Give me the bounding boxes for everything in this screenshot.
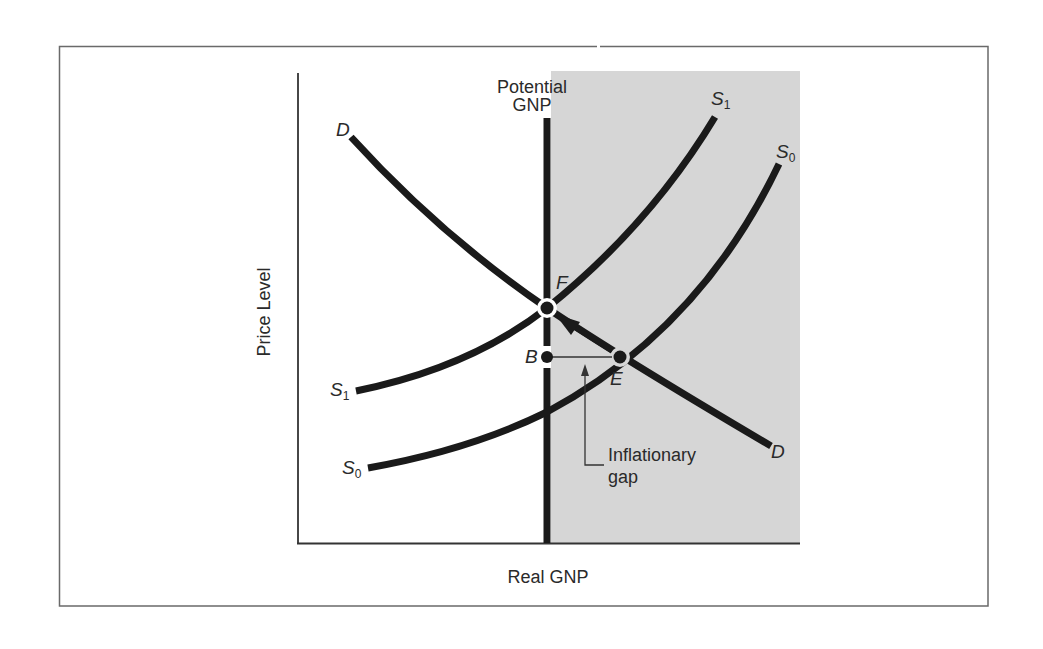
s0-label-top-sub: 0 bbox=[789, 151, 796, 165]
point-e-label: E bbox=[610, 368, 623, 389]
diagram-canvas: Potential GNP D D S1 S0 S1 S0 F B E Infl… bbox=[0, 0, 1043, 649]
s1-label-bottom-sub: 1 bbox=[343, 389, 350, 403]
demand-label-top: D bbox=[336, 119, 350, 140]
shaded-region-above-potential bbox=[551, 71, 800, 543]
point-f-label: F bbox=[556, 272, 569, 293]
s0-label-bottom-sub: 0 bbox=[355, 467, 362, 481]
s1-label-top-main: S bbox=[711, 88, 724, 109]
s0-label-top-main: S bbox=[776, 141, 789, 162]
potential-gnp-label-line2: GNP bbox=[512, 95, 551, 115]
inflationary-gap-label-line2: gap bbox=[608, 467, 638, 487]
potential-gnp-label-line1: Potential bbox=[497, 77, 567, 97]
x-axis-label: Real GNP bbox=[507, 567, 588, 587]
s1-label-top-sub: 1 bbox=[724, 98, 731, 112]
inflationary-gap-label-line1: Inflationary bbox=[608, 445, 696, 465]
s1-label-bottom-main: S bbox=[330, 379, 343, 400]
s0-label-bottom-main: S bbox=[342, 457, 355, 478]
demand-label-end: D bbox=[771, 441, 785, 462]
diagram-figure: Potential GNP D D S1 S0 S1 S0 F B E Infl… bbox=[0, 0, 1043, 649]
point-b bbox=[541, 351, 553, 363]
point-f bbox=[541, 302, 554, 315]
point-e bbox=[614, 351, 627, 364]
point-b-label: B bbox=[525, 346, 538, 367]
s0-label-bottom: S0 bbox=[342, 457, 362, 481]
s1-label-bottom: S1 bbox=[330, 379, 350, 403]
y-axis-label: Price Level bbox=[254, 267, 274, 356]
